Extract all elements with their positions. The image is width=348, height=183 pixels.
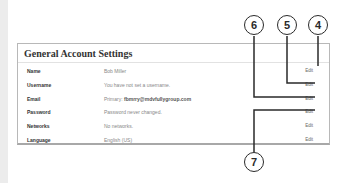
row-label: Networks	[27, 120, 50, 132]
settings-row-username: Username You have not set a username. Ed…	[18, 79, 329, 91]
email-address: fbmrry@mdvfullygroup.com	[124, 96, 191, 102]
panel-divider	[18, 62, 329, 63]
callout-badge-6: 6	[244, 15, 264, 35]
row-label: Username	[27, 79, 51, 91]
edit-email-link[interactable]: Edit	[305, 93, 313, 105]
edit-name-link[interactable]: Edit	[305, 65, 313, 77]
settings-row-password: Password Password never changed. Edit	[18, 106, 329, 118]
general-account-settings-panel: General Account Settings Name Bob Miller…	[17, 43, 330, 145]
edit-username-link[interactable]: Edit	[305, 79, 313, 91]
row-value: No networks.	[104, 120, 133, 132]
settings-row-email: Email Primary: fbmrry@mdvfullygroup.com …	[18, 93, 329, 105]
settings-row-networks: Networks No networks. Edit	[18, 120, 329, 132]
row-label: Email	[27, 93, 40, 105]
row-label: Name	[27, 65, 41, 77]
row-label: Password	[27, 106, 51, 118]
row-value: Password never changed.	[104, 106, 162, 118]
edit-language-link[interactable]: Edit	[305, 134, 313, 146]
edit-password-link[interactable]: Edit	[305, 106, 313, 118]
left-sidebar-strip	[0, 0, 8, 183]
row-value: English (US)	[104, 134, 132, 146]
edit-networks-link[interactable]: Edit	[305, 120, 313, 132]
callout-badge-4: 4	[308, 15, 328, 35]
row-value: Bob Miller	[104, 65, 126, 77]
row-value: Primary: fbmrry@mdvfullygroup.com	[104, 93, 191, 105]
settings-row-language: Language English (US) Edit	[18, 134, 329, 146]
email-prefix: Primary:	[104, 96, 124, 102]
row-label: Language	[27, 134, 51, 146]
row-value: You have not set a username.	[104, 79, 170, 91]
settings-row-name: Name Bob Miller Edit	[18, 65, 329, 77]
callout-badge-5: 5	[277, 15, 297, 35]
panel-title: General Account Settings	[24, 48, 132, 59]
callout-badge-7: 7	[244, 152, 264, 172]
